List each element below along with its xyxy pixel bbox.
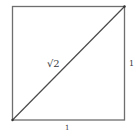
bottom-side-label: 1 [65,124,69,131]
right-side-label: 1 [129,59,134,68]
top-right-vertex-dot [123,5,125,7]
diagonal-line [13,7,125,121]
diagonal-label: √2 [47,58,60,69]
bottom-left-vertex-dot [11,119,13,121]
square-diagram: √2 1 1 [0,0,140,131]
